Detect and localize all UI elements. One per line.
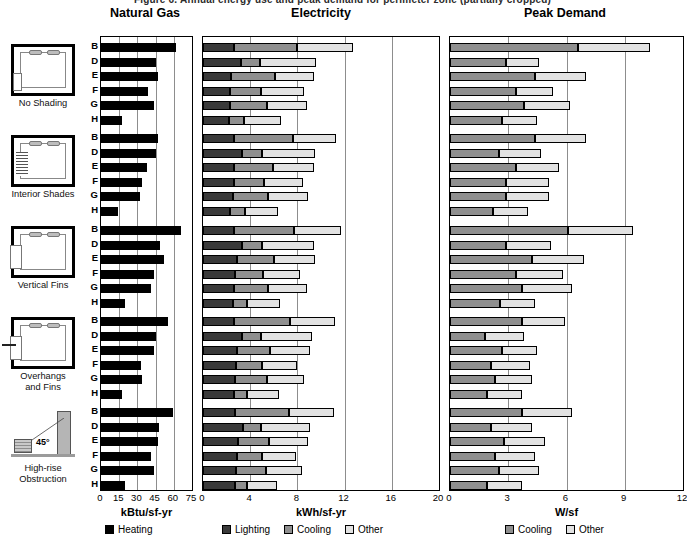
bar-segment-cooling <box>450 43 578 52</box>
bar-segment-cooling <box>450 178 506 187</box>
bar-segment-other <box>275 72 314 81</box>
bar-segment-other <box>516 270 563 279</box>
bar-row <box>450 284 572 293</box>
bar-row <box>101 207 118 216</box>
bar-row <box>203 390 279 399</box>
legend-label: Other <box>579 524 604 535</box>
bar-segment-cooling <box>450 332 485 341</box>
bar-row <box>203 270 300 279</box>
bar-segment-heating <box>101 408 173 417</box>
bar-segment-cooling <box>450 134 535 143</box>
bar-row <box>203 207 278 216</box>
case-icon-high-rise-obstruction: 45° High-rise Obstruction <box>0 409 86 484</box>
bar-row <box>450 163 559 172</box>
legend-electricity: LightingCoolingOther <box>222 524 383 535</box>
case-label-high-rise-obstruction: High-rise Obstruction <box>0 463 86 484</box>
row-label: G <box>86 464 98 473</box>
bar-segment-cooling <box>233 192 268 201</box>
bar-row <box>450 346 537 355</box>
bar-segment-cooling <box>450 452 495 461</box>
bar-segment-lighting <box>203 241 242 250</box>
bar-row <box>101 390 122 399</box>
bar-segment-lighting <box>203 72 231 81</box>
axis-unit-peak-demand: W/sf <box>449 506 684 518</box>
bar-segment-heating <box>101 241 160 250</box>
case-icon-overhangs-fins: Overhangs and Fins <box>0 317 86 392</box>
bar-segment-heating <box>101 226 181 235</box>
room-plan-no-shading-icon <box>11 44 75 96</box>
row-label: E <box>86 70 98 79</box>
panel-title-electricity: Electricity <box>200 6 442 20</box>
bar-segment-other <box>499 149 542 158</box>
bar-row <box>203 423 310 432</box>
bar-row <box>450 58 539 67</box>
axis-tick-label: 75 <box>186 492 197 503</box>
bar-row <box>450 481 522 490</box>
bar-row <box>101 101 154 110</box>
bar-row <box>101 346 154 355</box>
figure-caption-clipped: Figure 6. Annual energy use and peak dem… <box>0 0 685 5</box>
bar-segment-other <box>270 346 310 355</box>
bar-segment-other <box>504 437 545 446</box>
bar-row <box>203 116 281 125</box>
bar-row <box>101 134 158 143</box>
legend-natural-gas: Heating <box>105 524 152 535</box>
bar-segment-cooling <box>450 437 504 446</box>
legend-item: Other <box>566 524 604 535</box>
bar-segment-heating <box>101 437 158 446</box>
bar-segment-other <box>487 390 522 399</box>
bar-segment-other <box>500 299 535 308</box>
row-label: D <box>86 56 98 65</box>
bar-segment-lighting <box>203 192 233 201</box>
bar-segment-other <box>524 101 571 110</box>
axis-tick-label: 0 <box>97 492 102 503</box>
bar-row <box>450 178 549 187</box>
bar-segment-other <box>262 361 297 370</box>
bar-segment-other <box>261 87 305 96</box>
bar-segment-cooling <box>234 390 247 399</box>
bar-row <box>450 134 586 143</box>
bar-row <box>203 134 336 143</box>
bar-segment-heating <box>101 192 140 201</box>
bar-segment-lighting <box>203 408 235 417</box>
bar-row <box>450 408 572 417</box>
gridline <box>174 37 175 490</box>
bar-segment-cooling <box>450 101 524 110</box>
bar-segment-cooling <box>237 255 274 264</box>
row-label: G <box>86 99 98 108</box>
bar-row <box>101 192 140 201</box>
bar-segment-cooling <box>234 178 265 187</box>
row-label: B <box>86 41 98 50</box>
bar-segment-heating <box>101 101 154 110</box>
bar-segment-cooling <box>243 423 261 432</box>
bar-segment-cooling <box>450 192 506 201</box>
bar-segment-other <box>506 178 549 187</box>
bar-row <box>450 299 535 308</box>
bar-segment-other <box>274 255 315 264</box>
bar-row <box>203 226 341 235</box>
bar-row <box>450 390 522 399</box>
bar-row <box>203 437 308 446</box>
legend-label: Cooling <box>518 524 552 535</box>
bar-row <box>203 178 303 187</box>
bar-segment-lighting <box>203 423 243 432</box>
axis-tick-label: 12 <box>677 492 687 503</box>
bar-segment-other <box>269 437 308 446</box>
bar-row <box>450 423 532 432</box>
bar-row <box>203 163 314 172</box>
bar-row <box>101 452 151 461</box>
bar-segment-lighting <box>203 317 234 326</box>
row-label: H <box>86 479 98 488</box>
bar-row <box>450 192 549 201</box>
bar-segment-cooling <box>450 270 516 279</box>
bar-segment-cooling <box>450 423 491 432</box>
bar-segment-heating <box>101 270 154 279</box>
bar-row <box>203 58 316 67</box>
bar-row <box>450 452 535 461</box>
row-label: E <box>86 435 98 444</box>
bar-segment-other <box>273 163 314 172</box>
room-plan-overhangs-fins-icon <box>11 317 75 369</box>
bar-segment-lighting <box>203 207 230 216</box>
bar-segment-lighting <box>203 332 242 341</box>
axis-tick-label: 45 <box>149 492 160 503</box>
